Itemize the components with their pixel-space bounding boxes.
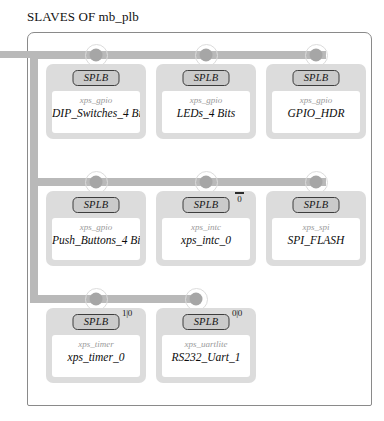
splb-badge[interactable]: SPLB	[293, 70, 340, 86]
block-type: xps_uartlite	[162, 339, 250, 350]
block-type: xps_gpio	[162, 95, 250, 106]
bus-node-r2c3[interactable]	[310, 176, 323, 189]
bus-node-r1c2[interactable]	[200, 49, 213, 62]
block-name: xps_intc_0	[162, 233, 250, 247]
bus-node-r2c2[interactable]	[200, 176, 213, 189]
peripheral-block-dip-switches[interactable]: SPLB xps_gpio DIP_Switches_4 Bits	[46, 64, 146, 139]
page-title: SLAVES OF mb_plb	[27, 9, 139, 25]
block-type: xps_spi	[272, 222, 360, 233]
splb-badge[interactable]: SPLB	[293, 197, 340, 213]
bus-node-r3c1[interactable]	[90, 293, 103, 306]
peripheral-block-uart[interactable]: SPLB xps_uartlite RS232_Uart_1	[156, 308, 256, 383]
bus-node-r3c2[interactable]	[190, 293, 203, 306]
splb-badge[interactable]: SPLB	[73, 70, 120, 86]
block-name: RS232_Uart_1	[162, 350, 250, 364]
bus-segment-row3	[30, 295, 200, 303]
bus-node-r1c1[interactable]	[90, 49, 103, 62]
block-label-box: xps_spi SPI_FLASH	[272, 218, 360, 260]
intc-port-label: 0	[237, 194, 242, 204]
block-type: xps_gpio	[52, 95, 140, 106]
splb-badge[interactable]: SPLB	[73, 197, 120, 213]
block-label-box: xps_gpio Push_Buttons_4 Bits	[52, 218, 140, 260]
bus-vertical-trunk	[30, 51, 38, 303]
block-name: DIP_Switches_4 Bits	[52, 106, 140, 120]
block-label-box: xps_gpio DIP_Switches_4 Bits	[52, 91, 140, 133]
block-label-box: xps_timer xps_timer_0	[52, 335, 140, 377]
peripheral-block-gpio-hdr[interactable]: SPLB xps_gpio GPIO_HDR	[266, 64, 366, 139]
splb-badge[interactable]: SPLB	[73, 314, 120, 330]
block-name: xps_timer_0	[52, 350, 140, 364]
timer-port-marker: 1|0	[122, 308, 132, 318]
plb-slaves-diagram: SLAVES OF mb_plb SPLB xps_gpio DIP_Switc…	[0, 0, 384, 421]
block-name: Push_Buttons_4 Bits	[52, 233, 140, 247]
block-label-box: xps_gpio GPIO_HDR	[272, 91, 360, 133]
intc-port-marker: 0	[235, 192, 244, 204]
peripheral-block-push-buttons[interactable]: SPLB xps_gpio Push_Buttons_4 Bits	[46, 191, 146, 266]
block-label-box: xps_gpio LEDs_4 Bits	[162, 91, 250, 133]
block-type: xps_intc	[162, 222, 250, 233]
block-type: xps_gpio	[52, 222, 140, 233]
block-name: GPIO_HDR	[272, 106, 360, 120]
splb-badge[interactable]: SPLB	[183, 314, 230, 330]
block-type: xps_timer	[52, 339, 140, 350]
splb-badge[interactable]: SPLB	[183, 197, 230, 213]
block-label-box: xps_intc xps_intc_0	[162, 218, 250, 260]
splb-badge[interactable]: SPLB	[183, 70, 230, 86]
bus-segment-row2	[30, 178, 326, 186]
bus-node-r1c3[interactable]	[310, 49, 323, 62]
block-label-box: xps_uartlite RS232_Uart_1	[162, 335, 250, 377]
peripheral-block-spi-flash[interactable]: SPLB xps_spi SPI_FLASH	[266, 191, 366, 266]
peripheral-block-leds[interactable]: SPLB xps_gpio LEDs_4 Bits	[156, 64, 256, 139]
uart-port-marker: 0|0	[232, 308, 242, 318]
peripheral-block-timer[interactable]: SPLB xps_timer xps_timer_0	[46, 308, 146, 383]
block-name: LEDs_4 Bits	[162, 106, 250, 120]
bus-segment-row1	[30, 51, 326, 59]
block-type: xps_gpio	[272, 95, 360, 106]
block-name: SPI_FLASH	[272, 233, 360, 247]
bus-node-r2c1[interactable]	[90, 176, 103, 189]
